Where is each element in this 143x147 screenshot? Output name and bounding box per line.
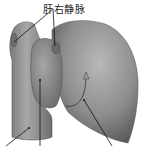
- liver-illustration: [0, 0, 143, 147]
- leader-dot-caudate: [39, 79, 41, 81]
- right-hepatic-vein-stump: [52, 42, 60, 54]
- label-right-hepatic-vein: 肝右静脉: [43, 1, 85, 16]
- liver-anatomy-diagram: 肝右静脉: [0, 0, 143, 147]
- leader-dot-ivc: [28, 127, 30, 129]
- leader-dot-ligament: [83, 99, 85, 101]
- right-liver-lobe: [52, 21, 138, 143]
